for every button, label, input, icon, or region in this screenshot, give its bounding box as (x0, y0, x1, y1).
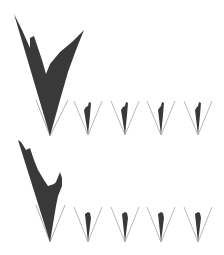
row-2-small-wedge-1 (74, 207, 102, 242)
row-1-small-wedge-1 (74, 101, 102, 135)
row-2-large-wedge (18, 140, 65, 242)
guide-line (147, 101, 161, 135)
guide-line (147, 207, 161, 242)
wedge-figure (0, 0, 224, 255)
row-2-small-wedge-3 (147, 207, 175, 242)
guide-line (111, 207, 125, 242)
guide-line (184, 207, 198, 242)
row-1-small-wedge-4 (184, 101, 212, 135)
row-2-small-wedge-4 (184, 207, 212, 242)
row-1-small-wedge-2 (111, 101, 139, 135)
row-2-small-wedge-2 (111, 207, 139, 242)
guide-line (184, 101, 198, 135)
row-1-large-wedge (14, 14, 84, 136)
wedge-shape (18, 140, 62, 242)
guide-line (74, 207, 88, 242)
row-1-small-wedge-3 (147, 101, 175, 135)
wedge-shape (14, 14, 84, 136)
